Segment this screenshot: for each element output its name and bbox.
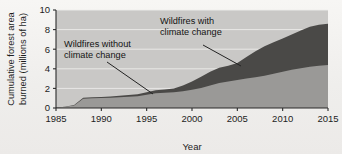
chart-svg: 0246810 1985199019952000200520102015 Yea… — [0, 0, 342, 154]
y-axis-title-line-2: burned (millions of ha) — [18, 13, 28, 105]
annotation-with-line-1: Wildfires with — [160, 16, 214, 26]
svg-text:2: 2 — [45, 83, 50, 94]
figure-container: 0246810 1985199019952000200520102015 Yea… — [0, 0, 342, 154]
y-axis-title-line-1: Cumulative forest area — [6, 11, 16, 105]
svg-text:10: 10 — [39, 4, 50, 15]
svg-text:0: 0 — [45, 102, 50, 113]
annotation-without-line-1: Wildfires without — [64, 39, 131, 49]
annotation-with-line-2: climate change — [160, 27, 222, 37]
annotation-without-line-2: climate change — [64, 50, 126, 60]
svg-text:2015: 2015 — [317, 113, 338, 124]
y-axis-tick-labels: 0246810 — [39, 4, 50, 113]
svg-text:1995: 1995 — [136, 113, 157, 124]
svg-text:1985: 1985 — [45, 113, 66, 124]
svg-text:2010: 2010 — [272, 113, 293, 124]
svg-text:8: 8 — [45, 24, 50, 35]
x-axis-title: Year — [182, 141, 201, 152]
x-axis-tick-labels: 1985199019952000200520102015 — [45, 113, 338, 124]
svg-text:4: 4 — [45, 63, 50, 74]
svg-text:2000: 2000 — [181, 113, 202, 124]
svg-text:6: 6 — [45, 44, 50, 55]
svg-text:1990: 1990 — [91, 113, 112, 124]
svg-text:2005: 2005 — [227, 113, 248, 124]
